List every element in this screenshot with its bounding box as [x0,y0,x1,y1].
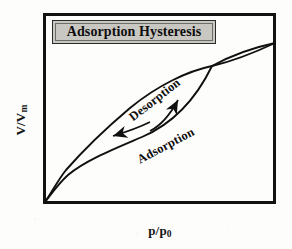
adsorption-curve [45,43,275,202]
y-axis-label: V/Vm [13,104,29,135]
y-axis-label-subscript: m [19,104,29,112]
chart-title-box: Adsorption Hysteresis [52,20,216,44]
x-axis-label-subscript: 0 [167,229,172,239]
x-axis-label: p/p0 [148,223,172,239]
chart-title: Adsorption Hysteresis [67,24,201,40]
desorption-curve [45,43,275,202]
y-axis-label-main: V/V [13,113,28,136]
x-axis-label-main: p/p [148,223,167,238]
desorption-arrow-icon [113,122,150,136]
adsorption-hysteresis-figure: Adsorption Hysteresis Desorption Adsorpt… [0,0,292,249]
